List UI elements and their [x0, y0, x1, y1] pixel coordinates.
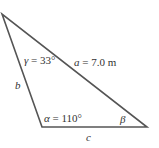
side-b-label: b: [15, 79, 21, 91]
triangle-diagram: γ = 33° a = 7.0 m b α = 110° β c: [0, 0, 159, 148]
angle-alpha-label: α = 110°: [44, 112, 82, 124]
side-a-label: a = 7.0 m: [74, 56, 117, 68]
a-value: = 7.0 m: [80, 56, 117, 68]
triangle-shape: [2, 14, 147, 127]
c-symbol: c: [86, 131, 91, 143]
gamma-value: = 33°: [28, 54, 55, 66]
b-symbol: b: [15, 79, 21, 91]
beta-symbol: β: [119, 113, 126, 125]
angle-beta-label: β: [119, 113, 126, 125]
side-c-label: c: [86, 131, 91, 143]
angle-gamma-label: γ = 33°: [24, 54, 55, 66]
alpha-value: = 110°: [50, 112, 82, 124]
